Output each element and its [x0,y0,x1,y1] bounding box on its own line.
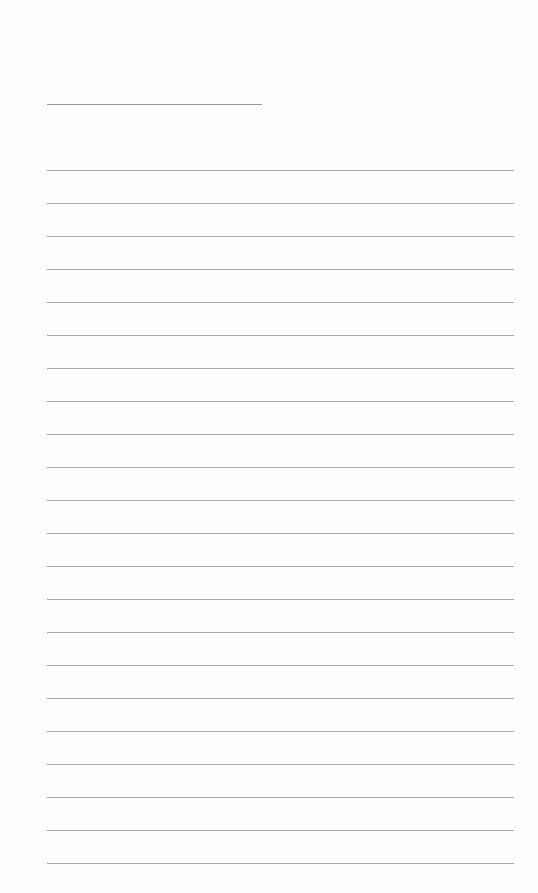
ruled-line [47,665,514,666]
ruled-line [47,797,514,798]
ruled-line [47,203,514,204]
ruled-line [47,533,514,534]
ruled-line [47,269,514,270]
ruled-line [47,863,514,864]
ruled-line [47,599,514,600]
ruled-line [47,632,514,633]
ruled-line [47,434,514,435]
ruled-line [47,335,514,336]
ruled-line [47,500,514,501]
title-underline [47,104,262,105]
lined-paper-page [0,0,538,893]
ruled-line [47,731,514,732]
ruled-line [47,236,514,237]
ruled-line [47,302,514,303]
ruled-line [47,764,514,765]
ruled-line [47,170,514,171]
ruled-line [47,368,514,369]
ruled-line [47,401,514,402]
ruled-line [47,830,514,831]
ruled-line [47,467,514,468]
ruled-line [47,566,514,567]
ruled-line [47,698,514,699]
